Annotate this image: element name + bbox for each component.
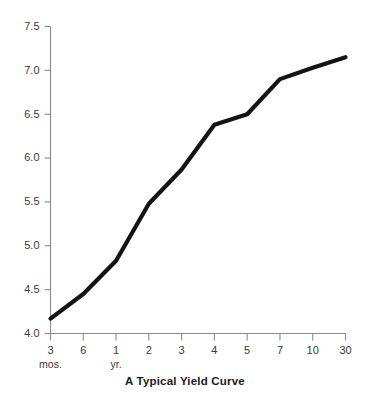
x-axis-tick-labels: 361234571030 <box>47 344 351 356</box>
x-tick-label: 7 <box>277 344 283 356</box>
x-tick-label: 1 <box>113 344 119 356</box>
y-axis-tick-labels: 4.04.55.05.56.06.57.07.5 <box>24 20 39 339</box>
y-tick-label: 6.0 <box>24 151 39 163</box>
x-tick-label: 5 <box>244 344 250 356</box>
chart-canvas: 4.04.55.05.56.06.57.07.5 361234571030 mo… <box>0 0 371 403</box>
x-tick-label: 3 <box>47 344 53 356</box>
y-axis-tick-marks <box>45 27 51 334</box>
x-axis-unit-annotations: mos.yr. <box>39 358 121 370</box>
x-tick-label: 30 <box>339 344 351 356</box>
y-tick-label: 7.0 <box>24 64 39 76</box>
yield-curve-line <box>51 57 346 318</box>
y-tick-label: 4.5 <box>24 283 39 295</box>
y-tick-label: 5.0 <box>24 239 39 251</box>
yield-curve-chart: 4.04.55.05.56.06.57.07.5 361234571030 mo… <box>0 0 371 403</box>
x-tick-label: 10 <box>307 344 319 356</box>
x-tick-label: 4 <box>211 344 217 356</box>
y-tick-label: 7.5 <box>24 20 39 32</box>
x-axis-unit-label: mos. <box>39 358 62 370</box>
x-axis-tick-marks <box>51 334 346 341</box>
x-axis-unit-label: yr. <box>111 358 122 370</box>
x-tick-label: 6 <box>80 344 86 356</box>
x-tick-label: 2 <box>146 344 152 356</box>
y-tick-label: 5.5 <box>24 195 39 207</box>
x-tick-label: 3 <box>179 344 185 356</box>
y-tick-label: 4.0 <box>24 327 39 339</box>
y-tick-label: 6.5 <box>24 108 39 120</box>
chart-title: A Typical Yield Curve <box>125 375 245 387</box>
